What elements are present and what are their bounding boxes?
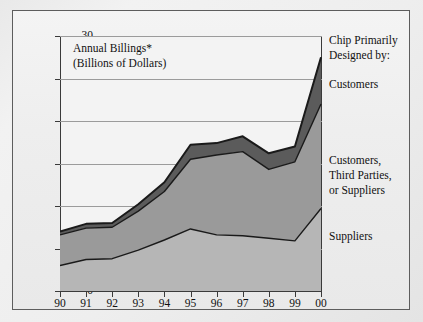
- x-tick-mark-97: [243, 292, 244, 297]
- legend-label-customers: Customers: [329, 77, 378, 92]
- x-tick-mark-93: [138, 292, 139, 297]
- x-tick-label-97: 97: [231, 298, 255, 310]
- x-tick-mark-94: [164, 292, 165, 297]
- x-tick-mark-96: [217, 292, 218, 297]
- x-tick-label-95: 95: [179, 298, 203, 310]
- x-tick-label-99: 99: [283, 298, 307, 310]
- chart-title-line2: (Billions of Dollars): [73, 56, 166, 71]
- x-tick-mark-90: [60, 292, 61, 297]
- x-tick-mark-00: [321, 292, 322, 297]
- figure-frame: 051015202530 9091929394959697989900 Annu…: [12, 10, 410, 310]
- x-tick-mark-91: [86, 292, 87, 297]
- x-tick-mark-95: [191, 292, 192, 297]
- legend-heading-line2: Designed by:: [329, 48, 398, 63]
- x-tick-label-96: 96: [205, 298, 229, 310]
- chart-title-line1: Annual Billings*: [73, 41, 166, 56]
- legend-label-mixed-line3: or Suppliers: [329, 183, 392, 198]
- x-tick-label-94: 94: [152, 298, 176, 310]
- figure-container: 051015202530 9091929394959697989900 Annu…: [0, 0, 423, 322]
- x-tick-mark-98: [269, 292, 270, 297]
- legend-heading-line1: Chip Primarily: [329, 33, 398, 48]
- legend-heading: Chip Primarily Designed by:: [329, 33, 398, 63]
- x-tick-label-00: 00: [309, 298, 333, 310]
- chart-title: Annual Billings* (Billions of Dollars): [73, 41, 166, 71]
- x-tick-label-98: 98: [257, 298, 281, 310]
- legend-item-customers-third-parties-or-suppliers: Customers, Third Parties, or Suppliers: [329, 153, 392, 198]
- x-tick-label-93: 93: [126, 298, 150, 310]
- legend-item-customers: Customers: [329, 77, 378, 92]
- legend-item-suppliers: Suppliers: [329, 229, 372, 244]
- x-tick-mark-99: [295, 292, 296, 297]
- legend-label-suppliers: Suppliers: [329, 229, 372, 244]
- legend-label-mixed-line1: Customers,: [329, 153, 392, 168]
- x-tick-label-92: 92: [100, 298, 124, 310]
- plot-area: [60, 36, 322, 292]
- legend-label-mixed-line2: Third Parties,: [329, 168, 392, 183]
- stacked-area-series: [60, 36, 322, 292]
- x-tick-label-91: 91: [74, 298, 98, 310]
- x-tick-label-90: 90: [48, 298, 72, 310]
- x-tick-mark-92: [112, 292, 113, 297]
